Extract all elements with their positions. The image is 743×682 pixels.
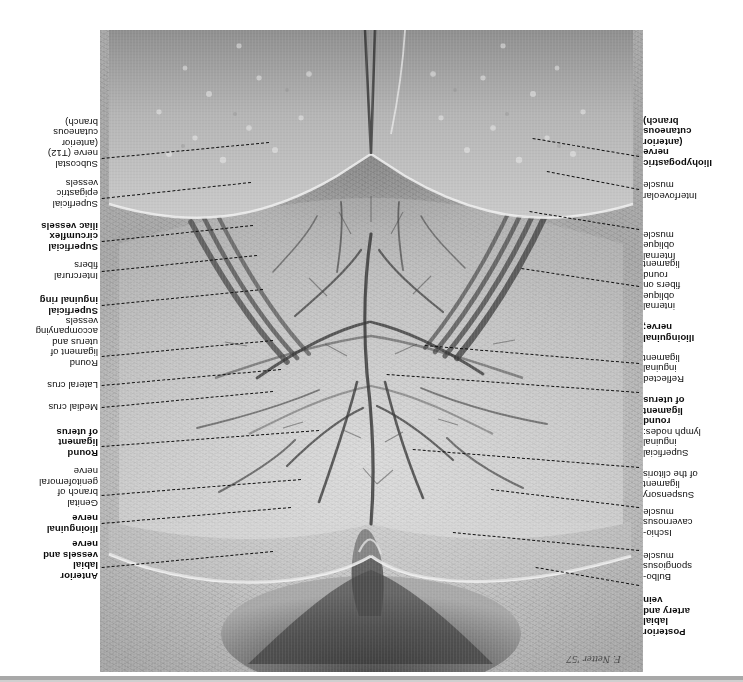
label-ischiocavernosus-muscle: Ischio- cavernosus muscle: [643, 507, 693, 539]
label-interfoveolar-muscle: Interfoveolar muscle: [643, 180, 697, 201]
label-internal-oblique-muscle: Internal oblique muscle: [643, 230, 676, 262]
label-superficial-epigastric-vessels: Superficial epigastric vessels: [53, 178, 98, 210]
label-bold-part: Iliohypogastric nerve (anterior cutaneou…: [643, 116, 712, 169]
label-bold-part: Superficial inguinal ring: [40, 296, 98, 318]
anatomy-illustration: F. Netter '57: [100, 30, 643, 674]
anatomical-plate: F. Netter '57 Posterior labial artery an…: [0, 0, 743, 682]
label-ilioinguinal-nerve-internal-oblique-fibers-on-round-ligament: Ilioinguinal nerve; internal oblique fib…: [643, 259, 694, 343]
label-genital-branch-of-genitofemoral-nerve: Genital branch of genitofemoral nerve: [39, 466, 98, 508]
label-superficial-inguinal-lymph-nodes-round-ligament-of-uterus: Superficial inguinal lymph nodes: round …: [643, 395, 701, 458]
label-bold-part: Round ligament of uterus: [56, 427, 98, 459]
page-bottom-edge: [0, 672, 743, 682]
label-medial-crus: Medial crus: [48, 402, 98, 413]
label-ilioinguinal-nerve: Ilioinguinal nerve: [47, 513, 98, 534]
label-subcostal-nerve-t12-anterior-cutaneous-branch: Subcostal nerve (T12) (anterior cutaneou…: [48, 117, 98, 170]
paper-grain-overlay: [100, 30, 643, 674]
label-round-ligament-of-uterus: Round ligament of uterus: [56, 427, 98, 459]
plate-flip-container: F. Netter '57 Posterior labial artery an…: [0, 0, 743, 682]
label-iliohypogastric-nerve-anterior-cutaneous-branch: Iliohypogastric nerve (anterior cutaneou…: [643, 116, 712, 169]
label-round-ligament-of-uterus-and-accompanying-vessels: Round ligament of uterus and accompanyin…: [36, 316, 98, 369]
label-reflected-inguinal-ligament: Reflected inguinal ligament: [643, 353, 684, 385]
label-bulbospongiosus-muscle: Bulbo- spongiosus muscle: [643, 551, 692, 583]
label-bold-part: Posterior labial artery and vein: [643, 596, 690, 639]
label-bold-part: Anterior labial vessels and nerve: [43, 540, 98, 583]
label-superficial-circumflex-iliac-vessels: Superficial circumflex iliac vessels: [41, 221, 98, 253]
label-intercrural-fibers: Intercrural fibers: [54, 260, 98, 281]
label-bold-part: Ilioinguinal nerve;: [643, 323, 694, 345]
label-bold-part: Superficial circumflex iliac vessels: [41, 221, 98, 253]
label-suspensory-ligament-of-the-clitoris: Suspensory ligament of the clitoris: [643, 469, 698, 501]
label-posterior-labial-artery-and-vein: Posterior labial artery and vein: [643, 595, 690, 637]
label-lateral-crus: Lateral crus: [47, 380, 98, 391]
artist-signature: F. Netter '57: [567, 654, 621, 666]
label-bold-part: Ilioinguinal nerve: [47, 514, 98, 536]
label-superficial-inguinal-ring: Superficial inguinal ring: [40, 295, 98, 316]
label-bold-part: round ligament of uterus: [643, 396, 685, 428]
label-anterior-labial-vessels-and-nerve: Anterior labial vessels and nerve: [43, 539, 98, 581]
